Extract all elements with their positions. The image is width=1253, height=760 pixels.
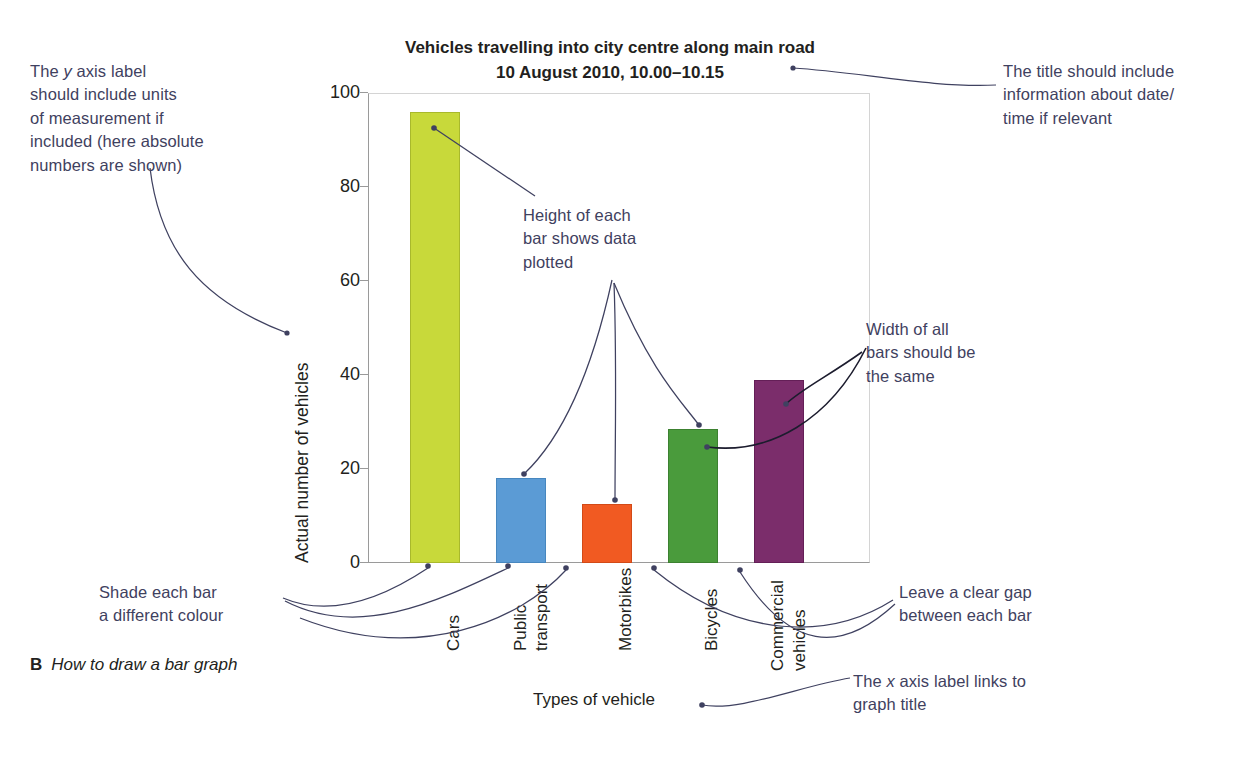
x-category-label-commercial: Commercial	[768, 580, 788, 671]
y-tick-label-100: 100	[300, 82, 360, 103]
y-tick-label-60: 60	[300, 270, 360, 291]
annotation-gap-note: Leave a clear gap between each bar	[899, 581, 1099, 628]
y-tick-mark-40	[360, 374, 368, 375]
figure-caption: BHow to draw a bar graph	[30, 655, 237, 675]
bar-bicycles	[668, 429, 718, 563]
y-tick-mark-20	[360, 468, 368, 469]
figure-caption-tag: B	[30, 655, 42, 674]
x-axis-title: Types of vehicle	[533, 690, 655, 710]
bar-public-transport	[496, 478, 546, 563]
y-tick-label-80: 80	[300, 176, 360, 197]
annotation-shade-note: Shade each bar a different colour	[99, 581, 299, 628]
x-category-label-transport: transport	[532, 584, 552, 651]
annotation-y-axis-note: The y axis label should include units of…	[30, 60, 245, 177]
x-category-label-motorbikes: Motorbikes	[616, 568, 636, 651]
figure-caption-text: How to draw a bar graph	[51, 655, 237, 674]
y-tick-mark-0	[360, 562, 368, 563]
annotation-height-note: Height of each bar shows data plotted	[523, 204, 703, 274]
y-axis-title: Actual number of vehicles	[292, 363, 313, 563]
annotation-title-note: The title should include information abo…	[1003, 60, 1233, 130]
bar-cars	[410, 112, 460, 563]
annotation-x-axis-note: The x axis label links to graph title	[853, 670, 1063, 717]
figure-canvas: Vehicles travelling into city centre alo…	[0, 0, 1253, 760]
x-category-label-cars: Cars	[444, 615, 464, 651]
annotation-width-note: Width of all bars should be the same	[866, 318, 1016, 388]
x-category-label-vehicles: vehicles	[790, 610, 810, 671]
y-tick-mark-100	[360, 92, 368, 93]
bar-motorbikes	[582, 504, 632, 563]
bar-commercial-vehicles	[754, 380, 804, 563]
x-category-label-bicycles: Bicycles	[702, 589, 722, 651]
x-category-label-public: Public	[511, 605, 531, 651]
y-tick-mark-60	[360, 280, 368, 281]
y-tick-mark-80	[360, 186, 368, 187]
